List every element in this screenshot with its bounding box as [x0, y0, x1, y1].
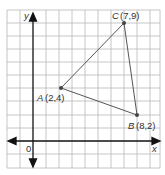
y-axis-label: y [23, 10, 30, 21]
label-a: A (2,4) [36, 92, 65, 103]
label-b: B (8,2) [128, 120, 156, 131]
point-c [122, 21, 126, 25]
label-a-coords: (2,4) [45, 92, 65, 103]
label-b-coords: (8,2) [136, 120, 156, 131]
x-axis-label: x [151, 143, 158, 154]
origin-label: 0 [26, 143, 31, 154]
coordinate-plane: y x 0 A (2,4) B (8,2) C (7,9) [0, 0, 165, 175]
label-c: C (7,9) [112, 10, 140, 21]
label-c-name: C [112, 10, 119, 21]
point-a [59, 86, 63, 90]
point-b [135, 113, 139, 117]
y-axis-up-arrow-icon [30, 13, 37, 21]
y-axis-down-arrow-icon [30, 159, 37, 167]
label-b-name: B [128, 120, 135, 131]
label-c-coords: (7,9) [120, 10, 140, 21]
label-a-name: A [36, 92, 43, 103]
x-axis-left-arrow-icon [8, 138, 16, 145]
